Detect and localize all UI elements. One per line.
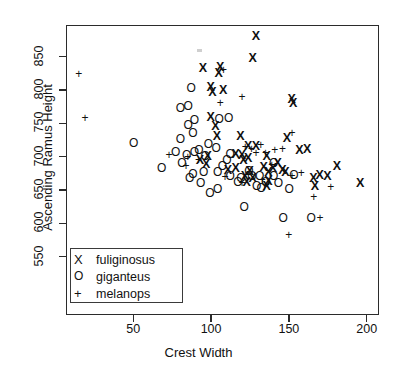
- y-tick-mark: [59, 223, 66, 224]
- legend-box: X fuliginosus O giganteus + melanops: [70, 248, 183, 303]
- x-tick-label: 100: [189, 322, 233, 336]
- legend-label-fuliginosus: fuliginosus: [96, 253, 155, 267]
- legend-marker-plus-icon: +: [74, 287, 96, 300]
- scan-artifact-speck: [197, 49, 202, 52]
- scatter-plot-figure: 55060065070075080085050100150200 Ascendi…: [0, 0, 397, 377]
- x-tick-mark: [133, 315, 134, 322]
- x-tick-label: 50: [111, 322, 155, 336]
- legend-label-melanops: melanops: [96, 287, 150, 301]
- x-tick-mark: [366, 315, 367, 322]
- legend-label-giganteus: giganteus: [96, 270, 150, 284]
- y-axis-label: Ascending Ramus Height: [40, 58, 55, 258]
- x-tick-mark: [210, 315, 211, 322]
- legend-item-melanops: + melanops: [74, 285, 182, 302]
- y-tick-mark: [59, 89, 66, 90]
- y-tick-mark: [59, 123, 66, 124]
- legend-item-fuliginosus: X fuliginosus: [74, 251, 182, 268]
- y-tick-mark: [59, 189, 66, 190]
- x-axis-label: Crest Width: [0, 345, 397, 360]
- x-tick-label: 150: [267, 322, 311, 336]
- legend-marker-x-icon: X: [74, 253, 96, 266]
- x-tick-mark: [288, 315, 289, 322]
- y-tick-mark: [59, 56, 66, 57]
- x-tick-label: 200: [345, 322, 389, 336]
- y-tick-mark: [59, 156, 66, 157]
- legend-marker-circle-icon: O: [74, 270, 96, 283]
- legend-item-giganteus: O giganteus: [74, 268, 182, 285]
- y-tick-mark: [59, 256, 66, 257]
